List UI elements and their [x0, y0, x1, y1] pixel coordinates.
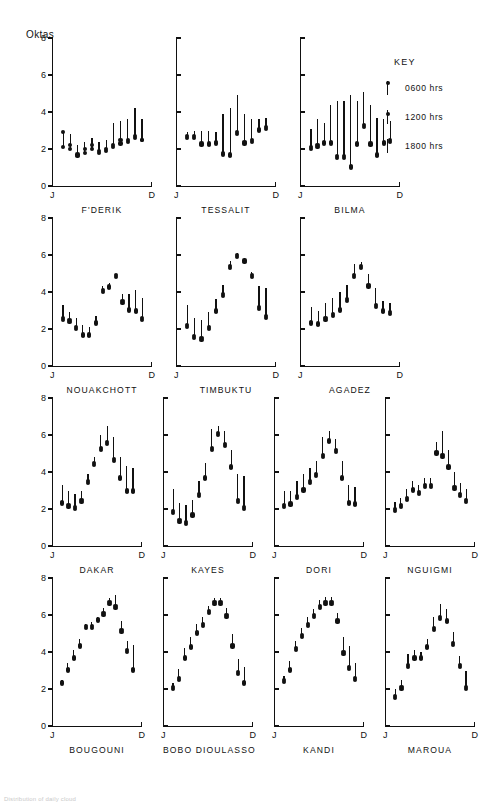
y-tick [48, 328, 53, 329]
data-point-1200 [127, 307, 131, 311]
data-point-1200 [282, 678, 286, 682]
data-point-1200 [177, 676, 181, 680]
month-stem-1800 [363, 92, 364, 127]
data-point-1200 [72, 655, 76, 659]
panel-title: DAKAR [52, 565, 142, 575]
data-point-1200 [366, 283, 370, 287]
month-stem-1800 [330, 105, 331, 144]
data-point-1200 [68, 143, 72, 147]
data-point-1200 [315, 143, 319, 147]
data-point-1200 [349, 164, 353, 168]
data-point-1200 [318, 604, 322, 608]
data-point-1200 [207, 141, 211, 145]
x-axis [163, 726, 253, 727]
y-tick [48, 148, 53, 149]
x-tick [52, 542, 53, 546]
data-point-1200 [412, 655, 416, 659]
y-tick [274, 508, 279, 509]
data-point-1200 [67, 318, 71, 322]
data-point-1200 [399, 685, 403, 689]
data-point-1200 [75, 152, 79, 156]
panel-title: TIMBUKTU [176, 385, 276, 395]
data-point-1200 [189, 644, 193, 648]
x-tick-label-start: J [383, 551, 388, 560]
data-point-1200 [214, 140, 218, 144]
data-point-1200 [419, 655, 423, 659]
month-stem-1800 [243, 476, 244, 509]
x-tick-label-start: J [298, 371, 303, 380]
month-stem-1800 [376, 118, 377, 157]
chart-panel-tessalit: JDTESSALIT [176, 38, 276, 220]
y-tick-label: 2 [41, 325, 46, 334]
data-point-1200 [84, 624, 88, 628]
x-tick-label-start: J [298, 191, 303, 200]
legend-key: KEY 0600 hrs1200 hrs1800 hrs [383, 57, 487, 167]
data-point-1200 [125, 488, 129, 492]
x-tick [399, 362, 400, 366]
x-tick [141, 542, 142, 546]
data-point-0600 [118, 141, 122, 145]
data-point-0600 [83, 151, 87, 155]
x-tick-label-start: J [161, 551, 166, 560]
x-tick [385, 722, 386, 726]
x-axis [176, 366, 276, 367]
data-point-1200 [236, 498, 240, 502]
y-tick [48, 37, 53, 38]
data-point-1200 [140, 138, 144, 142]
plain-line-icon [383, 137, 395, 155]
y-tick [274, 577, 279, 578]
y-tick-label: 8 [41, 34, 46, 43]
panel-title: NGUIGMI [385, 565, 475, 575]
legend-item-label: 1200 hrs [405, 112, 443, 122]
data-point-1200 [340, 475, 344, 479]
x-tick-label-end: D [397, 191, 404, 200]
month-stem-1800 [244, 114, 245, 144]
data-point-1200 [329, 600, 333, 604]
data-point-1200 [218, 600, 222, 604]
y-tick [300, 74, 305, 75]
data-point-1200 [79, 498, 83, 502]
chart-panel-kandi: JDKANDI [274, 578, 364, 760]
y-tick-label: 8 [41, 394, 46, 403]
data-point-1200 [214, 308, 218, 312]
data-point-1200 [257, 127, 261, 131]
panel-title: KAYES [163, 565, 253, 575]
x-tick [52, 362, 53, 366]
y-tick [176, 111, 181, 112]
figure-caption: Distribution of daily cloud [4, 796, 76, 802]
x-tick [474, 542, 475, 546]
data-point-1200 [327, 438, 331, 442]
x-tick [274, 722, 275, 726]
panel-title: BILMA [300, 205, 400, 215]
x-tick [176, 182, 177, 186]
data-point-1200 [94, 320, 98, 324]
data-point-1200 [131, 488, 135, 492]
data-point-1200 [81, 332, 85, 336]
data-point-1200 [60, 680, 64, 684]
y-tick [300, 37, 305, 38]
data-point-1200 [177, 518, 181, 522]
data-point-1200 [335, 618, 339, 622]
data-point-1200 [341, 650, 345, 654]
data-point-1200 [334, 448, 338, 452]
chart-panel-bougouni: 02468JDBOUGOUNI [52, 578, 142, 760]
month-stem-1800 [350, 95, 351, 167]
y-tick [274, 434, 279, 435]
y-tick-label: 6 [41, 251, 46, 260]
data-point-1200 [107, 284, 111, 288]
data-point-1200 [99, 446, 103, 450]
y-tick [48, 291, 53, 292]
x-tick [363, 722, 364, 726]
x-tick [151, 362, 152, 366]
data-point-1200 [368, 141, 372, 145]
x-tick-label-start: J [50, 551, 55, 560]
data-point-1200 [224, 613, 228, 617]
chart-panel-maroua: JDMAROUA [385, 578, 475, 760]
data-point-1200 [288, 501, 292, 505]
data-point-1200 [432, 626, 436, 630]
chart-panel-nouakchott: 02468JDNOUAKCHOTT [52, 218, 152, 400]
dot-top-of-line-icon [383, 79, 395, 97]
data-point-1200 [362, 123, 366, 127]
y-tick [385, 434, 390, 435]
